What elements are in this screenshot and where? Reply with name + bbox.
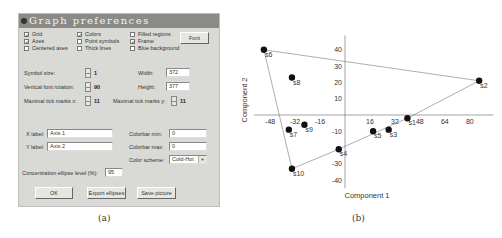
- x-tick-label: -16: [315, 118, 325, 125]
- axis-labels: Component 1Component 2: [240, 77, 390, 200]
- y-tick-label: 20: [334, 79, 342, 86]
- point-label: s6: [265, 51, 273, 58]
- point-label: s3: [390, 131, 398, 138]
- point-label: s9: [305, 126, 313, 133]
- point-label: s5: [374, 132, 382, 139]
- y-tick-label: -30: [332, 160, 342, 167]
- y-tick-label: -40: [332, 177, 342, 184]
- x-tick-label: 80: [466, 118, 474, 125]
- caption-b: (b): [352, 213, 365, 223]
- convex-hull: [264, 50, 479, 169]
- pca-scatter-plot: -48-32-16163248648040302010-10-30-40 s1s…: [0, 0, 502, 238]
- x-tick-label: 48: [416, 118, 424, 125]
- plot-axes: -48-32-16163248648040302010-10-30-40: [254, 36, 493, 189]
- point-label: s4: [340, 150, 348, 157]
- data-points: s1s2s3s4s5s6s7s8s9s10: [261, 47, 488, 177]
- point-label: s8: [293, 79, 301, 86]
- point-label: s1: [408, 119, 416, 126]
- point-label: s7: [290, 131, 298, 138]
- x-tick-label: -32: [290, 118, 300, 125]
- y-tick-label: 10: [334, 95, 342, 102]
- y-tick-label: -10: [332, 128, 342, 135]
- x-tick-label: -48: [265, 118, 275, 125]
- y-axis-title: Component 2: [240, 77, 249, 122]
- y-tick-label: 40: [334, 46, 342, 53]
- point-label: s10: [293, 170, 304, 177]
- x-tick-label: 64: [441, 118, 449, 125]
- x-axis-title: Component 1: [344, 191, 389, 200]
- point-label: s2: [480, 82, 488, 89]
- x-tick-label: 16: [366, 118, 374, 125]
- y-tick-label: 30: [334, 63, 342, 70]
